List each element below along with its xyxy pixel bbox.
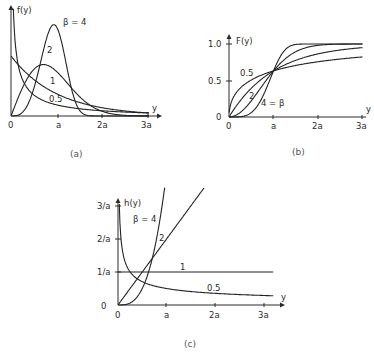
- x-axis-label: y: [152, 103, 157, 113]
- caption-a: (a): [70, 149, 83, 159]
- x-axis-arrow-icon: [280, 303, 285, 308]
- y-axis-arrow-icon: [227, 34, 232, 39]
- y-axis-label: h(y): [124, 198, 141, 208]
- ytick-label: 0.5: [208, 76, 222, 86]
- xtick-label: 3a: [356, 121, 367, 131]
- curve-beta-1: [11, 56, 149, 113]
- xtick-label: a: [164, 310, 169, 320]
- y-axis-arrow-icon: [9, 5, 14, 10]
- curve-beta-1: [229, 48, 362, 117]
- xtick-label: a: [271, 121, 276, 131]
- panel-c: h(y) y 0 1/a 2/a 3/a 0 a 2a 3a β = 4 2 1…: [97, 188, 286, 349]
- curves-c: [118, 188, 273, 305]
- xtick-label: 3a: [141, 120, 152, 130]
- caption-c: (c): [184, 339, 196, 349]
- curves-b: [229, 44, 362, 117]
- series-label: β = 4: [133, 214, 156, 224]
- caption-b: (b): [292, 147, 305, 157]
- series-label: 0.5: [240, 68, 254, 78]
- weibull-figure: f(y) y 0 a 2a 3a β = 4 2 1 0.5 (a) F(y) …: [0, 0, 374, 355]
- ytick-label: 0: [216, 112, 221, 122]
- series-label: 1: [50, 76, 55, 86]
- series-label: 2: [249, 91, 254, 101]
- y-axis-label: f(y): [17, 5, 32, 15]
- ytick-label: 3/a: [97, 201, 110, 211]
- xtick-label: 2a: [209, 310, 220, 320]
- series-label: 2: [159, 233, 164, 243]
- xtick-label: 0: [115, 310, 120, 320]
- xtick-label: 0: [226, 121, 231, 131]
- ytick-label: 2/a: [97, 234, 110, 244]
- x-axis-arrow-icon: [157, 114, 162, 119]
- xtick-label: 2a: [97, 120, 108, 130]
- xtick-label: 0: [8, 120, 13, 130]
- xtick-label: 2a: [312, 121, 323, 131]
- y-axis-label: F(y): [236, 36, 253, 46]
- y-axis-arrow-icon: [116, 198, 121, 203]
- series-label: 1: [180, 262, 185, 272]
- series-label: 2: [47, 45, 52, 55]
- curve-beta-4: [229, 44, 362, 117]
- series-label: 0.5: [207, 283, 221, 293]
- panel-a: f(y) y 0 a 2a 3a β = 4 2 1 0.5 (a): [8, 5, 162, 159]
- series-label: 4 = β: [261, 98, 284, 108]
- series-label: 0.5: [49, 94, 63, 104]
- x-axis-label: y: [281, 292, 286, 302]
- ytick-label: 0: [101, 301, 106, 311]
- ytick-label: 1/a: [97, 267, 110, 277]
- xtick-label: a: [56, 120, 61, 130]
- panel-b: F(y) y 0 0.5 1.0 0 a 2a 3a 0.5 2 4 = β (…: [208, 34, 371, 157]
- curve-beta-2: [229, 44, 362, 117]
- x-axis-label: y: [366, 104, 371, 114]
- xtick-label: 3a: [258, 310, 269, 320]
- ytick-label: 1.0: [208, 39, 222, 49]
- series-label: β = 4: [63, 17, 86, 27]
